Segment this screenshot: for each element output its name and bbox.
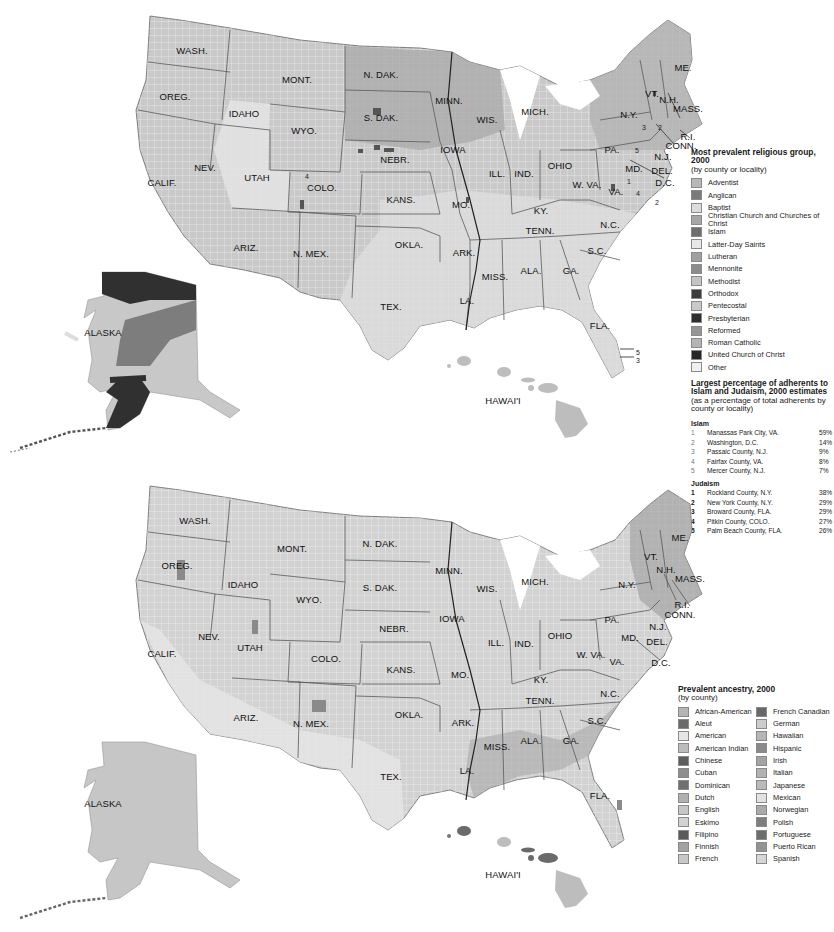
legend-item: Puerto Rican bbox=[756, 841, 834, 853]
state-label: IOWA bbox=[439, 613, 464, 624]
state-label: MINN. bbox=[435, 95, 462, 106]
state-label: ARIZ. bbox=[234, 242, 259, 253]
state-label: OKLA. bbox=[395, 239, 424, 250]
legend-label: American bbox=[695, 732, 726, 739]
legend-swatch bbox=[691, 227, 702, 237]
state-label: WASH. bbox=[176, 45, 207, 56]
legend-label: Baptist bbox=[708, 204, 731, 211]
legend-label: Chinese bbox=[695, 757, 722, 764]
state-label: MASS. bbox=[673, 103, 703, 114]
legend-label: Hispanic bbox=[773, 745, 801, 752]
legend-swatch bbox=[678, 768, 689, 778]
state-label: D.C. bbox=[655, 177, 674, 188]
legend-swatch bbox=[691, 190, 702, 200]
ranking-subtitle: (as a percentage of total adherents by c… bbox=[691, 397, 834, 414]
rank-number: 2 bbox=[691, 440, 707, 447]
state-label: N.C. bbox=[600, 688, 619, 699]
state-label: N.Y. bbox=[618, 579, 636, 590]
state-label: CONN. bbox=[664, 609, 695, 620]
legend-label: Portuguese bbox=[773, 831, 811, 838]
legend-label: Finnish bbox=[695, 843, 719, 850]
state-label: COLO. bbox=[307, 182, 337, 193]
state-label: MINN. bbox=[435, 565, 462, 576]
legend-item: Finnish bbox=[678, 841, 756, 853]
legend-item: United Church of Christ bbox=[691, 349, 834, 361]
state-label: MONT. bbox=[282, 74, 312, 85]
legend-item: Polish bbox=[756, 816, 834, 828]
state-label: MASS. bbox=[675, 573, 705, 584]
legend-swatch bbox=[756, 854, 767, 864]
state-label: MICH. bbox=[521, 576, 548, 587]
legend-swatch bbox=[691, 362, 702, 372]
legend-label: Polish bbox=[773, 819, 793, 826]
map-callout-number: 5 bbox=[635, 147, 639, 154]
legend-swatch bbox=[756, 731, 767, 741]
legend-swatch bbox=[678, 805, 689, 815]
islam-ranking-row: 2Washington, D.C.14% bbox=[691, 438, 834, 448]
state-label: TENN. bbox=[526, 225, 555, 236]
legend-item: Chinese bbox=[678, 755, 756, 767]
legend-item: Hawaiian bbox=[756, 730, 834, 742]
state-label: S.C. bbox=[588, 245, 607, 256]
legend-label: Lutheran bbox=[708, 253, 737, 260]
legend-item: French Canadian bbox=[756, 705, 834, 717]
legend-swatch bbox=[756, 768, 767, 778]
legend-swatch bbox=[756, 719, 767, 729]
state-label: N.C. bbox=[600, 219, 619, 230]
legend-item: Italian bbox=[756, 767, 834, 779]
state-label: MISS. bbox=[484, 741, 510, 752]
legend-item: American bbox=[678, 730, 756, 742]
state-label: VA. bbox=[610, 656, 625, 667]
religion-legend: Most prevalent religious group, 2000 (by… bbox=[691, 148, 834, 537]
state-label: N.J. bbox=[654, 151, 671, 162]
legend-item: German bbox=[756, 718, 834, 730]
state-label: N.J. bbox=[649, 621, 666, 632]
legend-label: French bbox=[695, 855, 718, 862]
islam-heading: Islam bbox=[691, 420, 834, 427]
state-label: N. MEX. bbox=[293, 248, 329, 259]
state-label: LA. bbox=[460, 295, 475, 306]
legend-label: Islam bbox=[708, 228, 726, 235]
state-label: ALASKA bbox=[84, 798, 122, 809]
legend-item: Spanish bbox=[756, 853, 834, 865]
legend-label: Adventist bbox=[708, 179, 738, 186]
state-label: S.C. bbox=[588, 715, 607, 726]
state-label: IDAHO bbox=[229, 108, 260, 119]
legend-label: German bbox=[773, 720, 800, 727]
legend-label: United Church of Christ bbox=[708, 351, 785, 358]
rank-place: Manassas Park City, VA. bbox=[707, 430, 819, 437]
state-label: HAWAI'I bbox=[485, 869, 521, 880]
legend-swatch bbox=[678, 842, 689, 852]
map-callout-number: 3 bbox=[642, 124, 646, 131]
legend-swatch bbox=[756, 743, 767, 753]
state-label: DEL. bbox=[646, 636, 668, 647]
legend-item: Islam bbox=[691, 226, 834, 238]
state-label: MO. bbox=[451, 669, 469, 680]
state-label: TEX. bbox=[380, 301, 402, 312]
state-label: IND. bbox=[514, 168, 533, 179]
legend-label: Orthodox bbox=[708, 290, 738, 297]
state-label: WYO. bbox=[296, 594, 322, 605]
state-label: ALA. bbox=[521, 735, 542, 746]
state-label: IOWA bbox=[440, 144, 465, 155]
legend-swatch bbox=[678, 854, 689, 864]
state-label: ILL. bbox=[489, 168, 505, 179]
islam-ranking-row: 5Mercer County, N.J.7% bbox=[691, 467, 834, 477]
state-label: OHIO bbox=[548, 630, 573, 641]
state-label: KANS. bbox=[386, 194, 415, 205]
legend-label: Mexican bbox=[773, 794, 801, 801]
state-label: FLA. bbox=[590, 320, 610, 331]
legend-item: Adventist bbox=[691, 177, 834, 189]
state-label: TENN. bbox=[526, 695, 555, 706]
state-label: MONT. bbox=[277, 543, 307, 554]
legend-item: Christian Church and Churches of Christ bbox=[691, 214, 834, 226]
legend-label: Filipino bbox=[695, 831, 718, 838]
state-label: S. DAK. bbox=[364, 112, 399, 123]
legend-item: Reformed bbox=[691, 324, 834, 336]
legend-swatch bbox=[691, 301, 702, 311]
state-label: IND. bbox=[514, 638, 533, 649]
rank-percentage: 9% bbox=[819, 449, 834, 456]
state-label: ALA. bbox=[521, 265, 542, 276]
legend-item: Mennonite bbox=[691, 263, 834, 275]
map-callout-number: 3 bbox=[636, 357, 640, 364]
